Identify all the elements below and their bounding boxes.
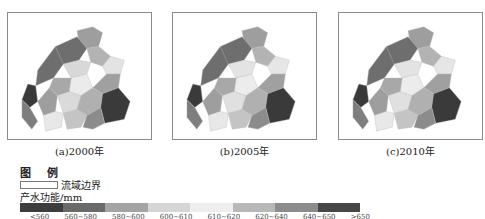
tick-label: 560~580 (64, 213, 97, 219)
legend-unit-label: 产水功能/mm (20, 189, 82, 204)
class-swatch (63, 203, 106, 212)
class-swatch (190, 203, 233, 212)
class-swatch (275, 203, 318, 212)
boundary-swatch-icon (20, 181, 58, 189)
watershed-map (173, 13, 316, 139)
class-swatch (233, 203, 276, 212)
caption-2005: (b)2005年 (172, 143, 317, 158)
tick-label: 620~640 (255, 213, 288, 219)
class-swatch (105, 203, 148, 212)
class-swatch (318, 203, 361, 212)
legend-colorbar (20, 203, 360, 212)
map-panel-2005 (172, 12, 317, 140)
tick-label: 640~650 (303, 213, 336, 219)
tick-label: 610~620 (208, 213, 241, 219)
tick-label: 580~600 (112, 213, 145, 219)
caption-2000: (a)2000年 (7, 143, 152, 158)
tick-label: >650 (351, 213, 370, 219)
map-panel-2010 (338, 12, 483, 140)
tick-label: 600~610 (160, 213, 193, 219)
watershed-map (339, 13, 482, 139)
tick-label: <560 (30, 213, 49, 219)
caption-2010: (c)2010年 (338, 143, 483, 158)
class-swatch (148, 203, 191, 212)
class-swatch (20, 203, 63, 212)
watershed-map (8, 13, 151, 139)
map-panel-2000 (7, 12, 152, 140)
legend-tick-labels: <560 560~580 580~600 600~610 610~620 620… (30, 213, 370, 219)
